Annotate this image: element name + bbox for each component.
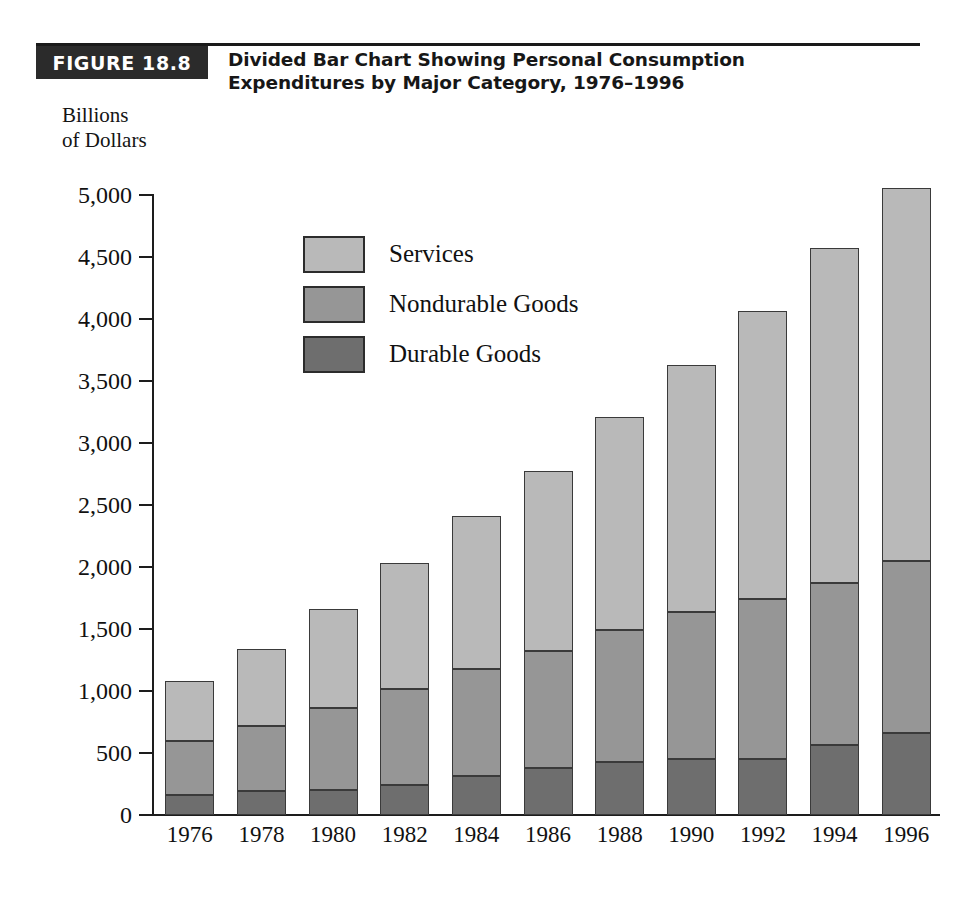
stacked-bar [165,681,214,815]
bar-segment-durable-goods [524,768,573,815]
bar-segment-nondurable-goods [524,651,573,768]
legend-swatch-services-icon [303,236,365,273]
x-axis-tick-label: 1994 [812,822,858,848]
bar-segment-services [309,609,358,708]
y-axis-tick [139,442,152,444]
y-axis-tick-label: 2,000 [78,554,132,581]
legend-swatch-nondurable-goods-icon [303,286,365,323]
stacked-bar [309,609,358,815]
y-axis-tick [139,566,152,568]
y-axis-caption-line-1: Billions [62,103,147,128]
y-axis-tick-label: 4,500 [78,244,132,271]
stacked-bar [380,563,429,815]
x-axis-tick-label: 1986 [525,822,571,848]
y-axis-tick-label: 3,500 [78,368,132,395]
y-axis-tick [139,380,152,382]
x-axis-tick-label: 1996 [883,822,929,848]
stacked-bar [738,311,787,815]
y-axis-tick [139,504,152,506]
bar-segment-services [667,365,716,612]
figure-title-line-2: Expenditures by Major Category, 1976–199… [228,71,868,94]
stacked-bar [595,417,644,815]
x-axis-tick-label: 1990 [668,822,714,848]
y-axis-tick-label: 500 [96,740,132,767]
stacked-bar [452,516,501,815]
bar-segment-durable-goods [309,790,358,815]
figure-title-line-1: Divided Bar Chart Showing Personal Consu… [228,48,868,71]
stacked-bar [237,649,286,815]
x-axis-tick-label: 1992 [740,822,786,848]
y-axis-tick-label: 1,000 [78,678,132,705]
bar-segment-durable-goods [380,785,429,815]
bar-segment-durable-goods [452,776,501,815]
bar-segment-nondurable-goods [810,583,859,745]
chart-legend: Services Nondurable Goods Durable Goods [303,236,579,386]
figure-container: FIGURE 18.8 Divided Bar Chart Showing Pe… [0,0,964,901]
bar-segment-durable-goods [738,759,787,815]
y-axis-tick-label: 3,000 [78,430,132,457]
legend-swatch-durable-goods-icon [303,336,365,373]
bar-segment-nondurable-goods [882,561,931,733]
bar-segment-services [738,311,787,599]
y-axis-tick [139,318,152,320]
bar-segment-services [595,417,644,630]
x-axis-tick-label: 1988 [597,822,643,848]
bar-segment-services [237,649,286,727]
y-axis-tick-label: 4,000 [78,306,132,333]
bar-segment-nondurable-goods [380,689,429,785]
x-axis-tick-label: 1984 [453,822,499,848]
y-axis-tick [139,256,152,258]
y-axis-tick [139,194,152,196]
stacked-bar [524,471,573,815]
y-axis-tick-label: 0 [120,802,132,829]
bar-segment-nondurable-goods [667,612,716,760]
stacked-bar [810,248,859,815]
y-axis-tick [139,752,152,754]
legend-label-durable-goods: Durable Goods [389,336,541,371]
bar-segment-durable-goods [667,759,716,815]
bar-segment-services [165,681,214,741]
y-axis-caption-line-2: of Dollars [62,128,147,153]
legend-item: Services [303,236,579,286]
bar-segment-durable-goods [810,745,859,815]
bar-segment-durable-goods [165,795,214,815]
legend-label-nondurable-goods: Nondurable Goods [389,286,579,321]
x-axis-tick-label: 1982 [382,822,428,848]
x-axis-tick-label: 1980 [310,822,356,848]
y-axis-tick [139,814,152,816]
bar-segment-durable-goods [595,762,644,815]
x-axis-tick-label: 1978 [238,822,284,848]
bar-segment-services [380,563,429,689]
bar-segment-nondurable-goods [237,726,286,790]
bar-segment-nondurable-goods [165,741,214,796]
bar-segment-services [810,248,859,583]
legend-item: Nondurable Goods [303,286,579,336]
bar-segment-services [452,516,501,669]
bar-segment-nondurable-goods [309,708,358,790]
y-axis-tick-label: 2,500 [78,492,132,519]
bar-segment-durable-goods [882,733,931,815]
bar-segment-services [882,188,931,561]
figure-number-badge: FIGURE 18.8 [36,46,208,79]
y-axis-tick-label: 5,000 [78,182,132,209]
legend-label-services: Services [389,236,474,271]
x-axis-tick-label: 1976 [167,822,213,848]
figure-title: Divided Bar Chart Showing Personal Consu… [228,48,868,94]
bar-segment-nondurable-goods [452,669,501,776]
y-axis-caption: Billions of Dollars [62,103,147,153]
stacked-bar [667,365,716,815]
bar-segment-nondurable-goods [738,599,787,759]
y-axis-tick [139,690,152,692]
legend-item: Durable Goods [303,336,579,386]
bar-segment-nondurable-goods [595,630,644,763]
stacked-bar [882,188,931,815]
y-axis-tick-label: 1,500 [78,616,132,643]
bar-segment-durable-goods [237,791,286,815]
y-axis-tick [139,628,152,630]
bar-segment-services [524,471,573,651]
